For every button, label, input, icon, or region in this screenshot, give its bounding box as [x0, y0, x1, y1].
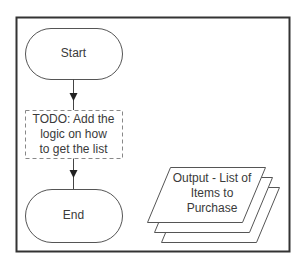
todo-line-3: to get the list	[25, 142, 122, 157]
todo-label: TODO: Add the logic on how to get the li…	[25, 112, 122, 157]
start-label: Start	[25, 46, 122, 61]
end-label: End	[25, 208, 122, 223]
output-line-3: Purchase	[157, 201, 267, 216]
output-label: Output - List of Items to Purchase	[157, 171, 267, 216]
todo-line-1: TODO: Add the	[25, 112, 122, 127]
todo-line-2: logic on how	[25, 127, 122, 142]
output-line-1: Output - List of	[157, 171, 267, 186]
output-line-2: Items to	[157, 186, 267, 201]
